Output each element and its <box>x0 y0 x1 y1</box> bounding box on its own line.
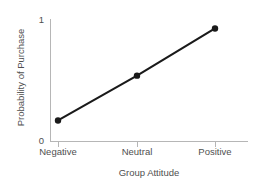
x-tick-label-neutral: Neutral <box>102 146 172 157</box>
x-axis-title: Group Attitude <box>49 167 249 178</box>
x-tick-label-negative: Negative <box>23 146 93 157</box>
data-point-positive <box>212 25 218 31</box>
chart-figure: 1 0 Negative Neutral Positive Probabilit… <box>0 0 257 189</box>
y-tick-label-1: 1 <box>24 15 44 25</box>
data-point-negative <box>55 117 61 123</box>
data-point-neutral <box>134 72 140 78</box>
x-tick-label-positive: Positive <box>180 146 250 157</box>
y-tick-label-0: 0 <box>24 136 44 146</box>
plot-area <box>0 0 257 189</box>
y-axis-title: Probability of Purchase <box>15 13 26 143</box>
